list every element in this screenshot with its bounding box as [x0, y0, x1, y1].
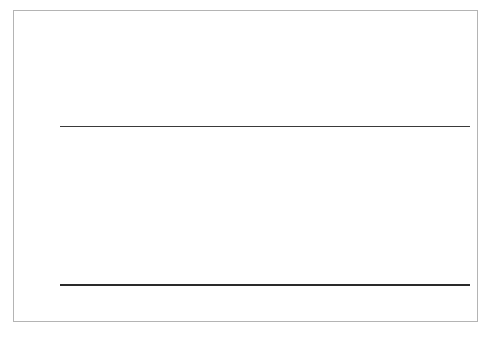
x-axis-line	[60, 284, 470, 286]
reference-line-100	[60, 126, 470, 127]
plot-area	[0, 0, 492, 340]
chart-figure	[0, 0, 492, 340]
